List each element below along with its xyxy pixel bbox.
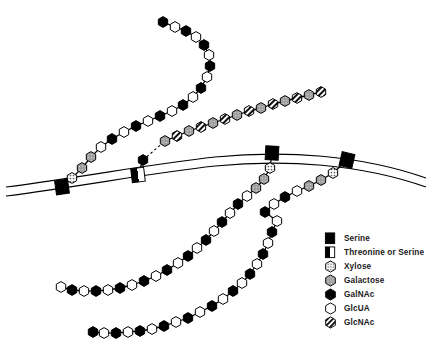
legend-item-galnac: GalNAc xyxy=(324,287,432,301)
glcua-residue xyxy=(99,328,108,339)
striped-hexagon-icon xyxy=(324,316,337,329)
filled-hexagon-icon xyxy=(324,288,337,301)
glcua-residue xyxy=(119,127,128,138)
glcua-residue xyxy=(173,258,182,269)
glcnac-residue xyxy=(172,131,181,142)
glcua-residue xyxy=(237,278,246,289)
galnac-residue xyxy=(88,327,97,338)
glcua-residue xyxy=(218,294,227,305)
galnac-residue xyxy=(196,83,205,94)
galnac-residue xyxy=(159,321,168,332)
galnac-residue xyxy=(260,207,269,218)
glcnac-residue xyxy=(244,106,253,117)
legend-label: GalNAc xyxy=(344,288,374,301)
open-hexagon-icon xyxy=(324,302,337,315)
glcua-residue xyxy=(195,307,204,318)
glcua-residue xyxy=(225,208,234,219)
galactose-residue xyxy=(304,181,313,192)
anchor-serine-mid-right xyxy=(265,146,279,161)
serine-anchor-square xyxy=(265,146,279,161)
galnac-residue xyxy=(67,285,76,296)
galnac-residue xyxy=(207,301,216,312)
glcua-residue xyxy=(147,324,156,335)
legend-item-xylose: Xylose xyxy=(324,259,432,273)
chain-linkage-lines xyxy=(61,22,347,333)
glcua-residue xyxy=(202,72,211,83)
galnac-residue xyxy=(107,134,116,145)
galactose-residue xyxy=(160,136,169,147)
galnac-residue xyxy=(228,286,237,297)
glcua-residue xyxy=(242,191,251,202)
galnac-residue xyxy=(91,286,100,297)
galnac-residue xyxy=(158,17,167,28)
galnac-residue xyxy=(280,192,289,203)
glcua-residue xyxy=(263,238,272,249)
galnac-residue xyxy=(233,199,242,210)
glcua-residue xyxy=(143,116,152,127)
galactose-residue xyxy=(86,152,95,163)
glcua-residue xyxy=(269,199,278,210)
glcua-residue xyxy=(292,186,301,197)
glcua-residue xyxy=(103,285,112,296)
glcua-residue xyxy=(123,327,132,338)
galactose-residue xyxy=(259,174,268,185)
glcnac-residue xyxy=(196,122,205,133)
galnac-residue xyxy=(135,326,144,337)
symbol-legend: SerineThreonine or SerineXyloseGalactose… xyxy=(324,231,432,329)
galactose-residue xyxy=(280,96,289,107)
galnac-residue xyxy=(155,111,164,122)
glcua-residue xyxy=(171,317,180,328)
glcua-residue xyxy=(191,32,200,43)
galnac-residue xyxy=(183,313,192,324)
half-filled-square-icon xyxy=(324,246,337,259)
glcua-residue xyxy=(188,92,197,103)
proteoglycan-diagram: SerineThreonine or SerineXyloseGalactose… xyxy=(0,0,432,357)
filled-square-icon xyxy=(324,232,337,245)
legend-label: Threonine or Serine xyxy=(344,246,424,259)
legend-label: GlcUA xyxy=(344,302,370,315)
glcua-residue xyxy=(151,271,160,282)
galactose-residue xyxy=(77,163,86,174)
galnac-residue xyxy=(138,155,147,166)
galnac-residue xyxy=(217,217,226,228)
galnac-residue xyxy=(183,251,192,262)
legend-label: Xylose xyxy=(344,260,371,273)
threonine-or-serine-anchor-square xyxy=(131,167,146,182)
anchor-serine-far-right xyxy=(339,152,355,169)
serine-anchor-square xyxy=(339,152,355,169)
galactose-residue xyxy=(208,118,217,129)
galnac-residue xyxy=(205,61,214,72)
legend-item-glcnac: GlcNAc xyxy=(324,315,432,329)
glcnac-residue xyxy=(268,99,277,110)
sugar-residues xyxy=(56,17,337,339)
xylose-residue xyxy=(265,163,274,174)
galnac-residue xyxy=(267,227,276,238)
legend-item-galactose: Galactose xyxy=(324,273,432,287)
legend-item-glcua: GlcUA xyxy=(324,301,432,315)
gray-hexagon-icon xyxy=(324,274,337,287)
galactose-residue xyxy=(256,103,265,114)
galnac-residue xyxy=(181,26,190,37)
glcua-residue xyxy=(272,216,281,227)
legend-label: Galactose xyxy=(344,274,385,287)
glcua-residue xyxy=(209,226,218,237)
xylose-residue xyxy=(328,168,337,179)
glcnac-residue xyxy=(220,114,229,125)
legend-label: Serine xyxy=(344,232,370,245)
glcua-residue xyxy=(96,142,105,153)
glcua-residue xyxy=(167,106,176,117)
galnac-residue xyxy=(111,328,120,339)
legend-item-serine: Serine xyxy=(324,231,432,245)
galnac-residue xyxy=(245,269,254,280)
galactose-residue xyxy=(251,183,260,194)
glcnac-residue xyxy=(292,93,301,104)
legend-label: GlcNAc xyxy=(344,316,374,329)
anchor-serine-left xyxy=(55,179,70,195)
galnac-residue xyxy=(201,235,210,246)
xylose-residue xyxy=(67,173,76,184)
glcua-residue xyxy=(170,22,179,33)
galnac-residue xyxy=(178,100,187,111)
galnac-residue xyxy=(115,283,124,294)
legend-item-threonine-or-serine: Threonine or Serine xyxy=(324,245,432,259)
dotted-hexagon-icon xyxy=(324,260,337,273)
